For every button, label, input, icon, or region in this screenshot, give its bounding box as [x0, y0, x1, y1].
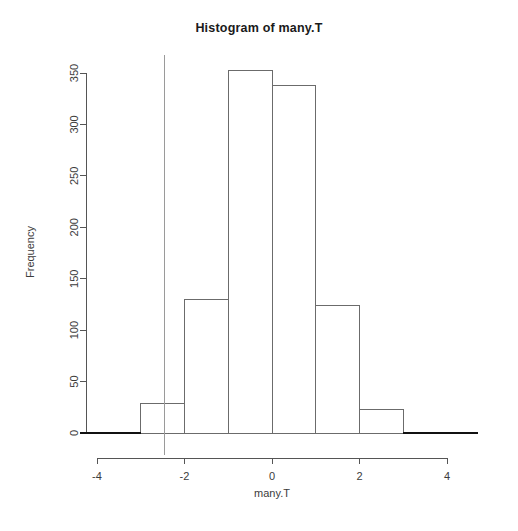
- y-axis-tick-label: 50: [68, 375, 80, 387]
- y-axis-tick-label: 200: [68, 218, 80, 236]
- x-axis-tick-label: -4: [92, 470, 102, 482]
- histogram-bar: [141, 403, 185, 433]
- histogram-bar: [185, 299, 229, 433]
- histogram-bar: [360, 409, 404, 433]
- histogram-bar: [272, 85, 316, 433]
- histogram-plot: Histogram of many.T 05010015020025030035…: [0, 0, 518, 531]
- y-axis-title: Frequency: [24, 226, 36, 278]
- x-axis-tick-label: 4: [444, 470, 450, 482]
- y-axis: 050100150200250300350: [68, 64, 86, 436]
- histogram-bar: [316, 305, 360, 433]
- x-axis: -4-2024: [92, 458, 450, 482]
- y-axis-tick-label: 100: [68, 321, 80, 339]
- chart-canvas: 050100150200250300350 -4-2024 Frequency …: [0, 0, 518, 531]
- y-axis-tick-label: 350: [68, 64, 80, 82]
- x-axis-title: many.T: [254, 487, 290, 499]
- y-axis-tick-label: 150: [68, 270, 80, 288]
- y-axis-tick-label: 0: [68, 430, 80, 436]
- x-axis-tick-label: 2: [356, 470, 362, 482]
- x-axis-tick-label: -2: [180, 470, 190, 482]
- y-axis-tick-label: 250: [68, 167, 80, 185]
- histogram-bar: [228, 71, 272, 433]
- y-axis-tick-label: 300: [68, 115, 80, 133]
- x-axis-tick-label: 0: [269, 470, 275, 482]
- histogram-bars: [141, 71, 404, 433]
